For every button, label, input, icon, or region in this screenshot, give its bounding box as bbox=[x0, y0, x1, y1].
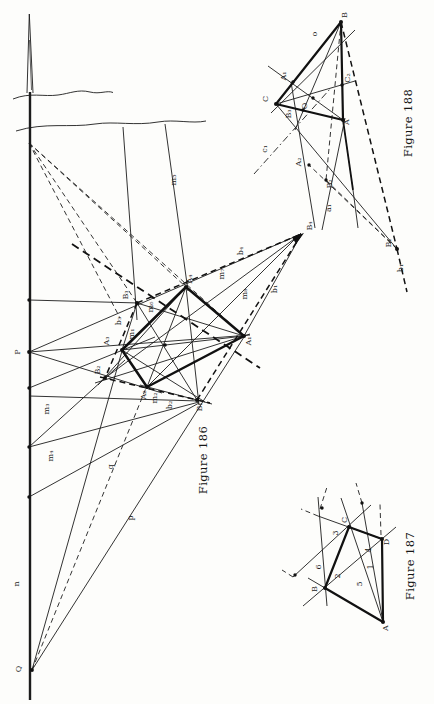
label-a1-line: a₁ bbox=[324, 204, 333, 212]
label-B4-point: B₄ bbox=[305, 221, 314, 230]
label-b1-line: b₁ bbox=[396, 264, 405, 272]
label-p-line: p bbox=[126, 515, 135, 520]
label-B1-point: B₁ bbox=[384, 238, 393, 247]
label-B2-point: B₂ bbox=[93, 365, 102, 374]
label-line-4: 4 bbox=[364, 547, 373, 552]
label-C-vertex: C bbox=[340, 517, 349, 523]
label-b2-line: b₂ bbox=[165, 401, 174, 409]
label-B1-point: B₁ bbox=[195, 402, 204, 411]
fig186-caption: Figure 186 bbox=[196, 426, 210, 494]
label-B2-point: B₂ bbox=[325, 179, 334, 188]
label-C2-point: C₂ bbox=[343, 73, 352, 82]
label-b4-line: b₄ bbox=[236, 247, 245, 255]
figure-187-diagram: ABCD362541 Figure 187 bbox=[282, 483, 417, 632]
figure-186-diagram: PnQqpm₃m₄m₅m₇m₈b₄b₁B₄A₄B₃m₆b₃m₁A₃B₂A₂m₂b… bbox=[12, 14, 314, 700]
label-m5-line: m₅ bbox=[169, 175, 178, 186]
label-m7-line: m₇ bbox=[217, 269, 226, 280]
label-m4-line: m₄ bbox=[46, 451, 55, 462]
label-B3-point: B₃ bbox=[284, 109, 293, 118]
label-C-vertex: C bbox=[261, 96, 270, 102]
label-m8-line: m₈ bbox=[240, 289, 249, 300]
label-A2-point: A₂ bbox=[139, 391, 148, 401]
label-line-1: 1 bbox=[366, 564, 375, 569]
label-A2-point: A₂ bbox=[294, 158, 303, 168]
label-A4-point: A₄ bbox=[185, 275, 194, 285]
label-A1-point: A₁ bbox=[279, 72, 288, 82]
label-q-line: q bbox=[106, 464, 115, 469]
label-c1-line: c₁ bbox=[260, 145, 269, 153]
label-m6-line: m₆ bbox=[146, 302, 155, 313]
geometry-plate-svg: PnQqpm₃m₄m₅m₇m₈b₄b₁B₄A₄B₃m₆b₃m₁A₃B₂A₂m₂b… bbox=[0, 0, 434, 704]
label-line-5: 5 bbox=[355, 581, 364, 586]
label-B3-point: B₃ bbox=[121, 290, 130, 299]
label-A1-point: A₁ bbox=[244, 337, 253, 347]
fig186-points bbox=[27, 285, 246, 672]
label-b3-line: b₃ bbox=[114, 317, 123, 325]
label-A-vertex: A bbox=[381, 625, 390, 632]
figure-188-diagram: BoA₁C₂CB₃OAc₁A₂B₂a₁B₁b₁ Figure 188 bbox=[254, 12, 415, 292]
label-p-point: P bbox=[13, 349, 22, 355]
label-D-vertex: D bbox=[382, 539, 391, 545]
label-B-vertex: B bbox=[310, 586, 319, 592]
label-line-3: 3 bbox=[331, 530, 340, 535]
label-b1-line: b₁ bbox=[270, 285, 279, 293]
fig188-caption: Figure 188 bbox=[401, 89, 415, 157]
fig187-caption: Figure 187 bbox=[403, 532, 417, 600]
fig187-labels: ABCD362541 bbox=[310, 517, 391, 632]
label-A-vertex: A bbox=[342, 119, 351, 126]
label-A3-point: A₃ bbox=[102, 337, 111, 347]
label-line-2: 2 bbox=[333, 573, 342, 578]
label-n-line: n bbox=[12, 581, 21, 586]
label-line-6: 6 bbox=[314, 564, 323, 569]
fig188-points bbox=[274, 20, 399, 251]
label-B-vertex: B bbox=[340, 12, 349, 18]
fig186-solid-rays bbox=[29, 233, 301, 670]
label-O-point: O bbox=[300, 102, 309, 109]
label-o-line: o bbox=[310, 31, 319, 36]
scanned-book-page: PnQqpm₃m₄m₅m₇m₈b₄b₁B₄A₄B₃m₆b₃m₁A₃B₂A₂m₂b… bbox=[0, 0, 434, 704]
label-q-point: Q bbox=[14, 665, 23, 672]
label-m3-line: m₃ bbox=[42, 404, 51, 415]
fig186-labels: PnQqpm₃m₄m₅m₇m₈b₄b₁B₄A₄B₃m₆b₃m₁A₃B₂A₂m₂b… bbox=[12, 175, 314, 673]
label-m2-line: m₂ bbox=[150, 393, 159, 404]
label-m1-line: m₁ bbox=[127, 329, 136, 340]
